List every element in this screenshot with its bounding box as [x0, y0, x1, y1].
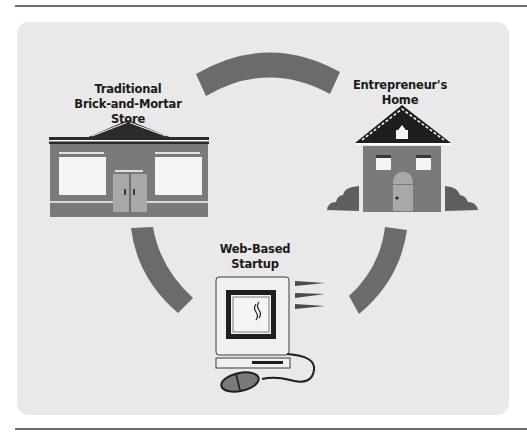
node-label-home: Entrepreneur's Home: [350, 78, 450, 108]
home-label-line-2: Home: [350, 93, 450, 108]
diagram-artwork: [0, 0, 527, 432]
startup-label-line-2: Startup: [210, 257, 300, 272]
store-label-line-2: Brick-and-Mortar Store: [58, 97, 198, 127]
store-label-line-1: Traditional: [58, 82, 198, 97]
node-label-store: Traditional Brick-and-Mortar Store: [58, 82, 198, 127]
bush-left-icon: [327, 186, 359, 211]
bush-right-icon: [445, 186, 478, 211]
computer-icon: [216, 277, 325, 395]
bottom-rule: [15, 428, 527, 430]
arc-top-icon: [196, 52, 340, 96]
house-icon: [327, 105, 478, 212]
mouse-icon: [220, 369, 261, 395]
node-label-startup: Web-Based Startup: [210, 242, 300, 272]
arc-left-icon: [131, 227, 193, 313]
startup-label-line-1: Web-Based: [210, 242, 300, 257]
home-label-line-1: Entrepreneur's: [350, 78, 450, 93]
storefront-icon: [49, 120, 209, 217]
arc-right-icon: [349, 227, 407, 314]
